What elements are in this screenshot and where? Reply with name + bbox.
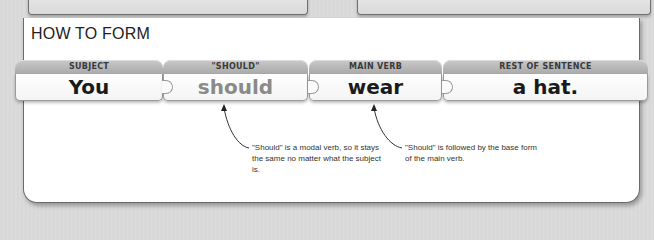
arrow-to-should-icon — [224, 108, 249, 148]
arrowhead-icon — [221, 104, 227, 111]
annotation-base-form: "Should" is followed by the base form of… — [405, 142, 545, 164]
annotation-arrows — [0, 0, 654, 215]
annotation-modal-verb: "Should" is a modal verb, so it stays th… — [252, 142, 382, 175]
arrowhead-icon — [371, 104, 377, 111]
